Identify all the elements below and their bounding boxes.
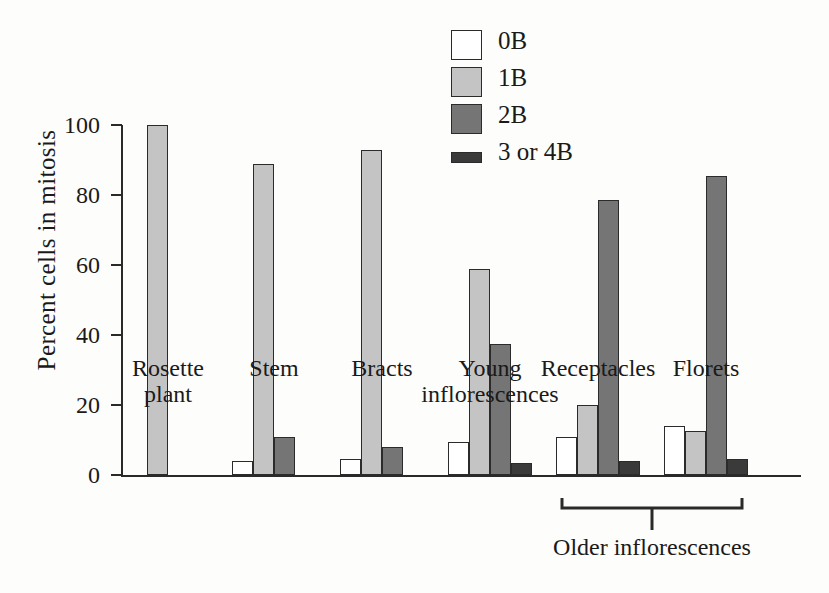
bar-chart: Percent cells in mitosis 020406080100 Ro… <box>0 0 829 593</box>
older-inflorescences-bracket <box>0 0 829 593</box>
bracket-caption: Older inflorescences <box>472 534 829 561</box>
